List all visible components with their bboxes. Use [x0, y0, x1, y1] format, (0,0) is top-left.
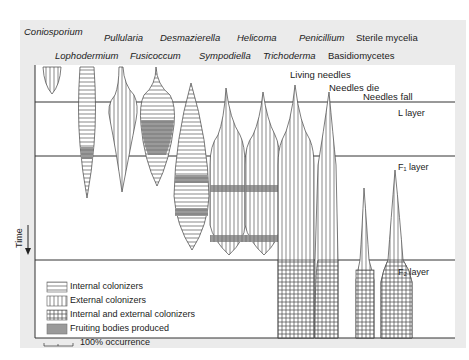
layer-f1: F₁ layer	[398, 162, 429, 172]
layer-l: L layer	[398, 108, 425, 118]
legend-scale: 100% occurrence	[80, 337, 150, 347]
legend-both: Internal and external colonizers	[70, 309, 195, 319]
stage-living-needles: Living needles	[290, 69, 351, 80]
figure-panel: Coniosporium Pullularia Desmazierella He…	[20, 20, 466, 348]
stage-needles-fall: Needles fall	[363, 91, 413, 102]
legend-fruiting: Fruiting bodies produced	[70, 323, 169, 333]
legend-external: External colonizers	[70, 295, 146, 305]
layer-f2: F₂ layer	[398, 267, 429, 277]
time-axis-label: Time	[14, 228, 24, 248]
legend-internal: Internal colonizers	[70, 281, 143, 291]
